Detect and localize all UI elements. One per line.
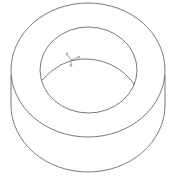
bore-bottom-edge	[42, 59, 135, 85]
drawing-viewport[interactable]: Ring part isometric view	[0, 0, 172, 179]
outer-bottom-edge	[11, 75, 165, 172]
ring-part-drawing	[0, 0, 172, 179]
inner-bore-edge	[40, 27, 137, 113]
outer-top-edge	[11, 3, 165, 137]
